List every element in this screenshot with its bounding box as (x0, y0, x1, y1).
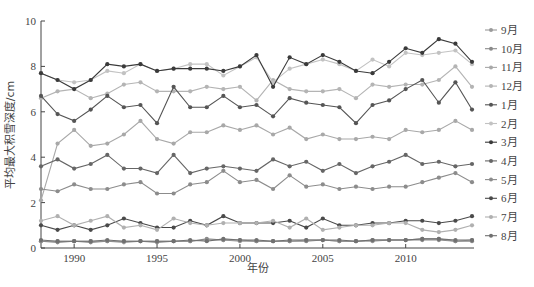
data-point (221, 169, 225, 173)
data-point (172, 191, 176, 195)
data-point (420, 78, 424, 82)
data-point (470, 162, 474, 166)
legend-item: 8月 (485, 230, 518, 242)
data-point (354, 137, 358, 141)
data-point (453, 48, 457, 52)
series-3 (39, 119, 474, 203)
data-point (254, 178, 258, 182)
data-point (155, 228, 159, 232)
legend-marker-icon (489, 196, 493, 200)
data-point (105, 187, 109, 191)
data-point (122, 182, 126, 186)
y-axis-title: 平均最大积雪深度/cm (3, 81, 17, 189)
data-point (337, 187, 341, 191)
data-point (404, 46, 408, 50)
data-point (254, 123, 258, 127)
data-point (337, 60, 341, 64)
data-point (288, 238, 292, 242)
data-point (89, 219, 93, 223)
data-point (321, 169, 325, 173)
data-point (55, 214, 59, 218)
data-point (205, 239, 209, 243)
data-point (238, 105, 242, 109)
data-point (420, 180, 424, 184)
data-point (321, 216, 325, 220)
data-point (39, 94, 43, 98)
data-point (370, 164, 374, 168)
legend-label: 12月 (501, 80, 523, 92)
data-point (304, 216, 308, 220)
data-point (304, 225, 308, 229)
data-point (39, 164, 43, 168)
data-point (354, 239, 358, 243)
data-point (72, 223, 76, 227)
data-point (404, 128, 408, 132)
data-point (221, 87, 225, 91)
data-point (72, 182, 76, 186)
data-point (321, 89, 325, 93)
data-point (72, 80, 76, 84)
data-point (72, 87, 76, 91)
data-point (172, 67, 176, 71)
data-point (354, 185, 358, 189)
data-point (288, 126, 292, 130)
data-point (105, 153, 109, 157)
legend-item: 11月 (485, 61, 523, 73)
data-point (304, 89, 308, 93)
data-point (370, 103, 374, 107)
data-point (55, 239, 59, 243)
legend-marker-icon (489, 103, 493, 107)
data-point (238, 238, 242, 242)
data-point (321, 238, 325, 242)
data-point (453, 219, 457, 223)
data-point (321, 228, 325, 232)
y-ticks: 0246810 (25, 15, 45, 254)
data-point (221, 164, 225, 168)
data-point (271, 219, 275, 223)
data-point (470, 180, 474, 184)
data-point (155, 69, 159, 73)
data-point (271, 132, 275, 136)
data-point (387, 98, 391, 102)
data-point (188, 67, 192, 71)
data-point (370, 223, 374, 227)
data-point (221, 123, 225, 127)
data-point (288, 164, 292, 168)
data-point (354, 171, 358, 175)
data-point (238, 166, 242, 170)
data-point (453, 119, 457, 123)
legend-marker-icon (489, 215, 493, 219)
data-point (437, 230, 441, 234)
data-point (254, 221, 258, 225)
data-point (453, 238, 457, 242)
data-point (288, 225, 292, 229)
data-point (453, 164, 457, 168)
data-point (387, 238, 391, 242)
data-point (354, 223, 358, 227)
data-point (470, 238, 474, 242)
data-point (188, 182, 192, 186)
data-point (370, 135, 374, 139)
data-point (370, 187, 374, 191)
legend: 9月10月11月12月1月2月3月4月5月6月7月8月 (485, 24, 523, 242)
legend-label: 4月 (501, 155, 518, 167)
legend-label: 9月 (501, 24, 518, 36)
data-point (122, 166, 126, 170)
data-point (437, 176, 441, 180)
data-point (138, 166, 142, 170)
data-point (254, 53, 258, 57)
data-point (470, 128, 474, 132)
data-point (122, 132, 126, 136)
data-point (337, 162, 341, 166)
data-point (188, 171, 192, 175)
legend-item: 12月 (485, 80, 523, 92)
data-point (55, 141, 59, 145)
data-point (105, 214, 109, 218)
data-point (271, 239, 275, 243)
data-point (321, 103, 325, 107)
data-point (337, 238, 341, 242)
y-tick-label: 4 (31, 151, 37, 163)
data-point (221, 69, 225, 73)
data-point (453, 64, 457, 68)
data-point (172, 239, 176, 243)
